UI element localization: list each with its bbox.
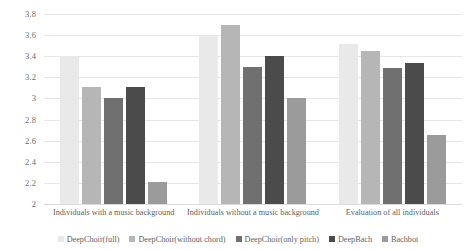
y-axis-tick-label: 2.8 — [25, 115, 36, 125]
y-axis-tick-label: 2 — [32, 199, 36, 209]
legend-item-label: DeepChoir(only pitch) — [245, 235, 319, 244]
bar-group — [44, 14, 183, 204]
x-axis: Individuals with a music backgroundIndiv… — [44, 206, 462, 222]
y-axis-tick-label: 3.6 — [25, 30, 36, 40]
x-axis-category-label: Evaluation of all individuals — [323, 206, 462, 222]
legend-item[interactable]: DeepChoir(without chord) — [129, 235, 225, 244]
bar — [126, 87, 145, 204]
bar — [243, 67, 262, 204]
legend-swatch-icon — [58, 236, 64, 242]
bar — [405, 63, 424, 204]
bar — [82, 87, 101, 204]
x-axis-category-label: Individuals without a music background — [183, 206, 322, 222]
legend-item-label: DeepChoir(full) — [67, 235, 120, 244]
y-axis-tick-label: 2.2 — [25, 178, 36, 188]
y-axis-tick-label: 3.8 — [25, 9, 36, 19]
legend-swatch-icon — [329, 236, 335, 242]
legend-item-label: DeepBach — [338, 235, 372, 244]
bar — [361, 51, 380, 204]
y-axis: 22.22.42.62.833.23.43.63.8 — [0, 14, 42, 204]
axis-baseline — [44, 204, 462, 205]
x-axis-category-label: Individuals with a music background — [44, 206, 183, 222]
legend-item-label: Bachbot — [391, 235, 418, 244]
y-axis-tick-label: 2.6 — [25, 136, 36, 146]
y-axis-tick-label: 3 — [32, 93, 36, 103]
legend-item[interactable]: DeepChoir(full) — [58, 235, 120, 244]
y-axis-tick-label: 2.4 — [25, 157, 36, 167]
bar-group — [323, 14, 462, 204]
legend-item[interactable]: Bachbot — [382, 235, 418, 244]
legend-item-label: DeepChoir(without chord) — [138, 235, 225, 244]
legend-swatch-icon — [236, 236, 242, 242]
bar — [427, 135, 446, 204]
chart-legend: DeepChoir(full)DeepChoir(without chord)D… — [0, 231, 476, 247]
bar — [104, 98, 123, 204]
bar — [221, 25, 240, 204]
bar — [339, 44, 358, 204]
bar — [383, 68, 402, 204]
legend-swatch-icon — [382, 236, 388, 242]
bar — [148, 182, 167, 204]
bar — [199, 35, 218, 204]
legend-swatch-icon — [129, 236, 135, 242]
legend-item[interactable]: DeepBach — [329, 235, 372, 244]
bar — [287, 98, 306, 204]
y-axis-tick-label: 3.4 — [25, 51, 36, 61]
bar-group — [183, 14, 322, 204]
bar — [265, 56, 284, 204]
y-axis-tick-label: 3.2 — [25, 72, 36, 82]
bar — [60, 56, 79, 204]
grouped-bar-chart: 22.22.42.62.833.23.43.63.8 Individuals w… — [0, 0, 476, 250]
plot-area — [44, 14, 462, 204]
bar-groups — [44, 14, 462, 204]
legend-item[interactable]: DeepChoir(only pitch) — [236, 235, 319, 244]
